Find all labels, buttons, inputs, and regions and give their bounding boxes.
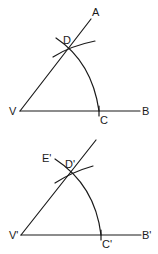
ray-va [20, 19, 91, 111]
label-a: A [92, 6, 100, 18]
angle-construction-diagram: V A B D C V' B' E' D' C' [0, 0, 158, 254]
label-b-prime: B' [142, 229, 151, 241]
label-c-prime: C' [102, 238, 112, 250]
figure-copied-angle: V' B' E' D' C' [9, 140, 151, 250]
label-d-prime: D' [65, 158, 75, 170]
arc-ec-prime [55, 159, 101, 235]
label-d: D [63, 34, 71, 46]
label-v: V [9, 105, 17, 117]
label-c: C [100, 114, 108, 126]
label-b: B [142, 105, 149, 117]
label-v-prime: V' [9, 229, 18, 241]
figure-original-angle: V A B D C [9, 6, 149, 126]
arc-dc [56, 38, 99, 111]
arc-cross-d [53, 41, 95, 57]
label-e-prime: E' [42, 152, 51, 164]
